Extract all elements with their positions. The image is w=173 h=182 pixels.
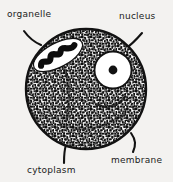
nucleolus-dot <box>109 66 118 75</box>
cell-body <box>26 29 146 149</box>
cell-diagram-figure: organelle nucleus membrane cytoplasm <box>0 0 173 182</box>
leader-line-cytoplasm <box>64 145 66 163</box>
label-organelle: organelle <box>7 9 51 19</box>
leader-line-membrane <box>131 133 135 152</box>
label-cytoplasm: cytoplasm <box>27 165 76 175</box>
leader-line-organelle <box>24 31 41 45</box>
nucleus-shape <box>95 52 132 89</box>
label-membrane: membrane <box>111 155 162 165</box>
label-nucleus: nucleus <box>119 11 156 21</box>
